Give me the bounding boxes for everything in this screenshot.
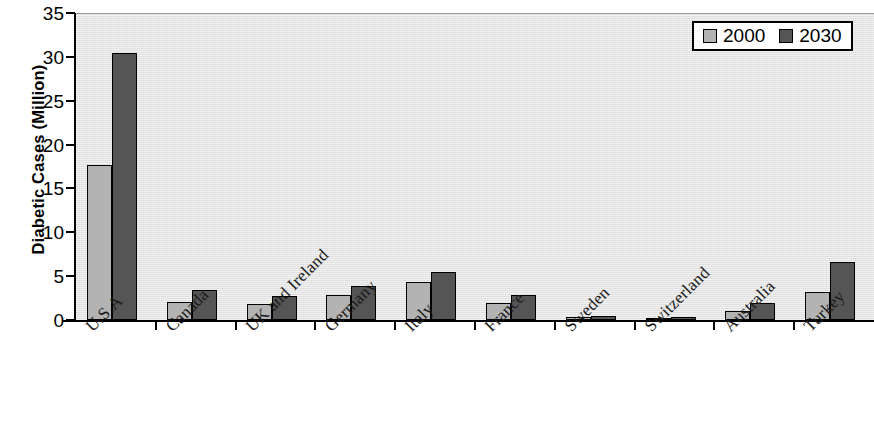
x-axis-tick-mark xyxy=(155,322,157,330)
y-axis-tick-mark xyxy=(66,12,75,14)
y-axis-tick-mark xyxy=(66,144,75,146)
plot-background-texture xyxy=(76,13,874,320)
y-axis-tick-mark xyxy=(66,100,75,102)
y-axis-tick-label: 25 xyxy=(30,92,64,111)
y-axis-tick-mark xyxy=(66,275,75,277)
y-axis-tick-label: 5 xyxy=(30,267,64,286)
x-axis-tick-mark xyxy=(394,322,396,330)
x-axis-tick-mark xyxy=(474,322,476,330)
bar-switzerland-2030 xyxy=(671,317,696,320)
light-gray-swatch xyxy=(703,29,717,43)
plot-area xyxy=(76,13,874,320)
y-axis-tick-label: 35 xyxy=(30,4,64,23)
y-axis-tick-label: 15 xyxy=(30,179,64,198)
dark-gray-swatch xyxy=(779,29,793,43)
y-axis-tick-label: 10 xyxy=(30,223,64,242)
bar-u-s-a-2030 xyxy=(112,53,137,320)
bar-chart: Diabetic Cases (Million) 35302520151050 … xyxy=(0,0,874,441)
y-axis-tick-label: 30 xyxy=(30,48,64,67)
legend-label: 2000 xyxy=(723,26,765,45)
legend-entry-2000: 2000 xyxy=(703,26,765,45)
x-axis-tick-mark xyxy=(793,322,795,330)
x-axis-category-labels: U.S.ACanadaUK and IrelandGermanyItalyFra… xyxy=(0,322,874,441)
y-axis-tick-mark xyxy=(66,56,75,58)
x-axis-tick-mark xyxy=(554,322,556,330)
x-axis-tick-mark xyxy=(235,322,237,330)
y-axis-tick-mark xyxy=(66,319,75,321)
plot-top-border xyxy=(76,13,874,14)
legend-label: 2030 xyxy=(799,26,841,45)
y-axis-tick-mark xyxy=(66,231,75,233)
x-axis-tick-mark xyxy=(314,322,316,330)
x-axis-tick-mark xyxy=(634,322,636,330)
chart-legend: 20002030 xyxy=(692,21,853,51)
x-axis-tick-mark xyxy=(713,322,715,330)
legend-entry-2030: 2030 xyxy=(779,26,841,45)
y-axis-tick-label: 20 xyxy=(30,136,64,155)
y-axis-tick-mark xyxy=(66,187,75,189)
